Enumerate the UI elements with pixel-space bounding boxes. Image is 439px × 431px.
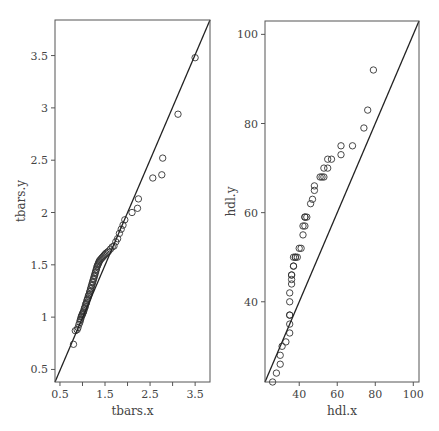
hdl-x-label: hdl.x	[327, 404, 357, 418]
data-point	[290, 263, 296, 269]
hdl-y-axis: 406080100	[237, 28, 265, 308]
y-tick-label: 40	[244, 296, 258, 309]
data-point	[175, 111, 181, 117]
x-tick-label: 100	[403, 388, 424, 401]
data-point	[150, 175, 156, 181]
data-point	[273, 370, 279, 376]
data-point	[338, 143, 344, 149]
qq-plots-canvas: 0.51.52.53.5 0.511.522.533.5 tbars.x tba…	[0, 0, 439, 431]
data-point	[328, 156, 334, 162]
data-point	[370, 67, 376, 73]
panel-tbars: 0.51.52.53.5 0.511.522.533.5 tbars.x tba…	[14, 20, 210, 418]
data-point	[311, 183, 317, 189]
hdl-x-axis: 406080100	[292, 382, 424, 401]
data-point	[325, 156, 331, 162]
y-tick-label: 2	[41, 207, 48, 220]
figure: 0.51.52.53.5 0.511.522.533.5 tbars.x tba…	[0, 0, 439, 431]
data-point	[365, 107, 371, 113]
data-point	[288, 272, 294, 278]
y-tick-label: 100	[237, 28, 258, 41]
tbars-y-axis: 0.511.522.533.5	[31, 50, 56, 377]
hdl-points	[269, 67, 376, 385]
data-point	[129, 209, 135, 215]
tbars-points	[70, 55, 198, 348]
data-point	[277, 361, 283, 367]
y-tick-label: 2.5	[31, 154, 49, 167]
data-point	[287, 299, 293, 305]
x-tick-label: 2.5	[141, 388, 159, 401]
y-tick-label: 60	[244, 207, 258, 220]
data-point	[349, 143, 355, 149]
data-point	[338, 152, 344, 158]
x-tick-label: 60	[330, 388, 344, 401]
hdl-y-label: hdl.y	[224, 186, 238, 216]
data-point	[134, 205, 140, 211]
data-point	[321, 165, 327, 171]
y-tick-label: 1	[41, 311, 48, 324]
x-tick-label: 1.5	[96, 388, 114, 401]
y-tick-label: 80	[244, 118, 258, 131]
data-point	[160, 155, 166, 161]
tbars-y-label: tbars.y	[14, 180, 28, 222]
tbars-x-axis: 0.51.52.53.5	[51, 382, 204, 401]
hdl-reference-line	[265, 21, 419, 382]
data-point	[361, 125, 367, 131]
y-tick-label: 3	[41, 102, 48, 115]
x-tick-label: 3.5	[186, 388, 204, 401]
panel-hdl: 406080100 406080100 hdl.x hdl.y	[224, 21, 424, 418]
data-point	[287, 290, 293, 296]
data-point	[325, 165, 331, 171]
y-tick-label: 1.5	[31, 259, 49, 272]
tbars-x-label: tbars.x	[111, 404, 153, 418]
tbars-reference-line	[55, 20, 210, 382]
data-point	[300, 232, 306, 238]
data-point	[135, 196, 141, 202]
data-point	[159, 172, 165, 178]
x-tick-label: 0.5	[51, 388, 69, 401]
x-tick-label: 40	[292, 388, 306, 401]
y-tick-label: 0.5	[31, 363, 49, 376]
y-tick-label: 3.5	[31, 50, 49, 63]
x-tick-label: 80	[368, 388, 382, 401]
